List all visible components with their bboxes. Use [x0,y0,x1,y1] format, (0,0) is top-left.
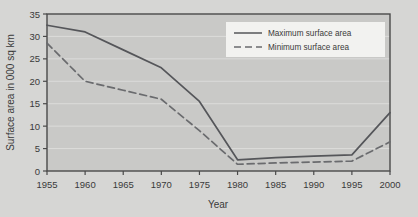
x-tick-label-1955: 1955 [36,179,57,190]
y-tick-label-20: 20 [29,76,40,87]
legend: Maximum surface area Minimum surface are… [226,22,385,57]
y-tick-label-30: 30 [29,31,40,42]
x-tick-label-1980: 1980 [227,179,248,190]
x-tick-label-1995: 1995 [341,179,362,190]
y-tick-label-0: 0 [35,166,40,177]
x-tick-label-1975: 1975 [189,179,210,190]
legend-label-minimum: Minimum surface area [268,43,349,52]
x-tick-label-1990: 1990 [303,179,324,190]
x-tick-label-1970: 1970 [151,179,172,190]
x-tick-label-1960: 1960 [75,179,96,190]
y-tick-label-25: 25 [29,53,40,64]
x-tick-label-2000: 2000 [379,179,400,190]
chart-figure: 05101520253035 1955196019651970197519801… [0,0,418,217]
x-tick-label-1985: 1985 [265,179,286,190]
y-tick-label-10: 10 [29,121,40,132]
y-tick-label-15: 15 [29,98,40,109]
y-tick-label-5: 5 [35,143,40,154]
y-axis-title: Surface area in 000 sq km [5,34,16,151]
y-tick-label-35: 35 [29,9,40,20]
surface-area-line-chart: 05101520253035 1955196019651970197519801… [0,0,418,217]
legend-label-maximum: Maximum surface area [268,29,352,38]
x-axis-title: Year [208,199,229,210]
x-tick-label-1965: 1965 [113,179,134,190]
